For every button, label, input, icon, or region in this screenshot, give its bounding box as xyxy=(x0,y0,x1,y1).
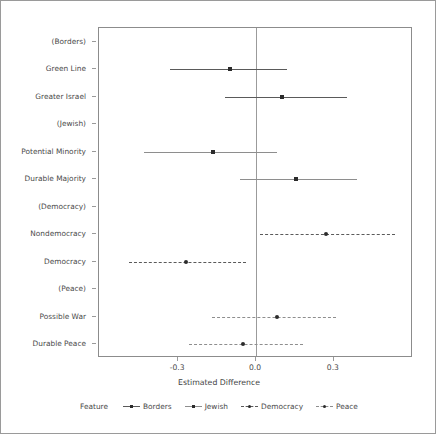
x-axis-tick xyxy=(177,357,178,361)
x-axis-title: Estimated Difference xyxy=(1,378,436,387)
legend: Feature BordersJewishDemocracyPeace xyxy=(1,399,436,413)
y-axis-label: Potential Minority xyxy=(21,146,86,155)
x-axis-ticklabel: -0.3 xyxy=(170,363,185,372)
y-axis-label: Greater Israel xyxy=(35,91,86,100)
y-axis-labels: (Borders)Green LineGreater Israel(Jewish… xyxy=(1,27,92,357)
estimate-point xyxy=(324,232,328,236)
coefficient-plot-figure: (Borders)Green LineGreater Israel(Jewish… xyxy=(0,0,436,434)
y-axis-label: Green Line xyxy=(46,64,86,73)
x-axis-tick xyxy=(333,357,334,361)
y-axis-label: Nondemocracy xyxy=(30,229,86,238)
confidence-interval-bar xyxy=(240,179,357,180)
legend-item-label: Borders xyxy=(143,402,172,411)
y-axis-label: (Democracy) xyxy=(38,201,86,210)
estimate-point xyxy=(228,67,232,71)
y-axis-label: (Borders) xyxy=(52,36,86,45)
legend-item-label: Jewish xyxy=(205,402,228,411)
estimate-point xyxy=(211,150,215,154)
y-axis-label: Possible War xyxy=(39,311,86,320)
y-axis-tick xyxy=(92,288,96,289)
confidence-interval-bar xyxy=(189,344,303,345)
y-axis-tick xyxy=(92,41,96,42)
y-axis-tick xyxy=(92,68,96,69)
estimate-point xyxy=(275,315,279,319)
legend-item-borders[interactable]: Borders xyxy=(123,402,172,411)
y-axis-label: (Jewish) xyxy=(57,119,86,128)
legend-item-label: Democracy xyxy=(261,402,303,411)
plot-panel xyxy=(98,27,412,357)
legend-key-icon xyxy=(241,403,258,410)
legend-item-peace[interactable]: Peace xyxy=(316,402,358,411)
y-axis-label: Democracy xyxy=(44,256,86,265)
y-axis-tick xyxy=(92,316,96,317)
legend-key-icon xyxy=(123,403,140,410)
y-axis-label: Durable Majority xyxy=(25,174,86,183)
y-axis-tick xyxy=(92,343,96,344)
x-axis-tick xyxy=(255,357,256,361)
estimate-point xyxy=(280,95,284,99)
confidence-interval-bar xyxy=(225,97,347,98)
y-axis-tick xyxy=(92,206,96,207)
estimate-point xyxy=(294,177,298,181)
y-axis-tick xyxy=(92,233,96,234)
y-axis-tick xyxy=(92,96,96,97)
legend-key-icon xyxy=(185,403,202,410)
legend-item-jewish[interactable]: Jewish xyxy=(185,402,228,411)
estimate-point xyxy=(241,342,245,346)
x-axis-ticks xyxy=(98,357,412,362)
y-axis-tick xyxy=(92,151,96,152)
x-axis-ticklabels: -0.30.00.3 xyxy=(98,363,412,375)
y-axis-tick xyxy=(92,123,96,124)
legend-title: Feature xyxy=(80,402,108,411)
y-axis-tick xyxy=(92,261,96,262)
y-axis-tick xyxy=(92,178,96,179)
x-axis-ticklabel: 0.0 xyxy=(249,363,261,372)
y-axis-label: Durable Peace xyxy=(33,339,86,348)
legend-key-icon xyxy=(316,403,333,410)
x-axis-ticklabel: 0.3 xyxy=(327,363,339,372)
y-axis-label: (Peace) xyxy=(58,284,86,293)
legend-item-label: Peace xyxy=(336,402,358,411)
legend-item-democracy[interactable]: Democracy xyxy=(241,402,303,411)
zero-reference-line xyxy=(256,28,257,356)
estimate-point xyxy=(184,260,188,264)
